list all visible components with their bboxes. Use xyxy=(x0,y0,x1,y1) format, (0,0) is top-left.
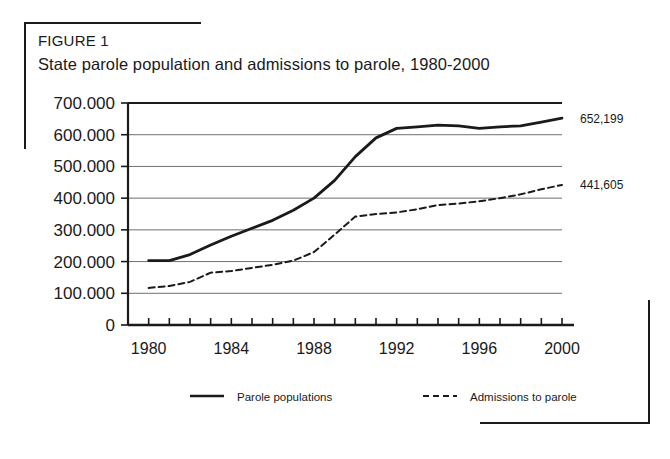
data-series xyxy=(149,118,562,288)
x-tick-label: 1992 xyxy=(379,340,415,357)
chart-legend: Parole populationsAdmissions to parole xyxy=(190,391,577,403)
gridlines xyxy=(121,103,562,325)
x-tick-label: 1984 xyxy=(214,340,250,357)
chart-canvas: 0100.000200.000300.000400.000500.000600.… xyxy=(0,0,670,459)
y-tick-label: 100.000 xyxy=(54,284,115,303)
y-tick-label: 500.000 xyxy=(54,157,115,176)
legend-item-parole-populations-label: Parole populations xyxy=(237,391,333,403)
y-tick-label: 700.000 xyxy=(54,94,115,113)
y-tick-label: 0 xyxy=(106,316,115,335)
y-tick-label: 400.000 xyxy=(54,189,115,208)
y-axis-tick-labels: 0100.000200.000300.000400.000500.000600.… xyxy=(54,94,115,335)
legend-item-admissions-to-parole-label: Admissions to parole xyxy=(470,391,577,403)
figure-container: FIGURE 1 State parole population and adm… xyxy=(0,0,670,459)
series-line-2 xyxy=(149,185,562,288)
y-tick-label: 300.000 xyxy=(54,221,115,240)
x-tick-label: 2000 xyxy=(544,340,580,357)
series-end-label-1: 652,199 xyxy=(580,112,624,126)
y-tick-label: 200.000 xyxy=(54,253,115,272)
series-line-1 xyxy=(149,118,562,260)
x-tick-label: 1980 xyxy=(131,340,167,357)
x-axis xyxy=(128,318,574,325)
y-tick-label: 600.000 xyxy=(54,126,115,145)
x-tick-label: 1988 xyxy=(296,340,332,357)
x-axis-tick-labels: 198019841988199219962000 xyxy=(131,340,580,357)
series-end-labels: 652,199441,605 xyxy=(580,112,624,193)
x-tick-label: 1996 xyxy=(462,340,498,357)
series-end-label-2: 441,605 xyxy=(580,178,624,192)
